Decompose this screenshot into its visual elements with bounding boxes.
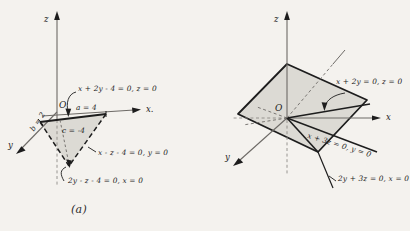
trace-yz-leader bbox=[61, 167, 66, 181]
panel-a-origin-label: O bbox=[59, 100, 66, 110]
panel-a-y-axis-label: y bbox=[8, 140, 13, 150]
panel-a-x-axis-label: x. bbox=[146, 104, 154, 114]
figure-container: z x. y O a = 4 b = 2 c = -4 x + 2y - 4 =… bbox=[0, 0, 410, 231]
y-axis-arrow bbox=[16, 146, 26, 154]
trace-yz-line-upper bbox=[333, 50, 345, 64]
panel-b-origin-label: O bbox=[275, 103, 282, 113]
x-axis-arrow bbox=[372, 115, 381, 120]
z-axis-arrow bbox=[54, 11, 60, 20]
panel-a-caption: (a) bbox=[71, 203, 87, 216]
panel-b: z x y O x + 2y = 0, z = 0 x + 3z = 0, y … bbox=[205, 0, 410, 231]
panel-b-graphic bbox=[205, 0, 410, 231]
panel-b-trace-xy-label: x + 2y = 0, z = 0 bbox=[336, 77, 402, 86]
panel-a-graphic bbox=[0, 0, 205, 231]
panel-a-trace-xy-label: x + 2y - 4 = 0, z = 0 bbox=[78, 84, 157, 93]
panel-b-z-axis-label: z bbox=[274, 14, 278, 24]
panel-b-x-axis-label: x bbox=[386, 112, 391, 122]
z-axis-arrow bbox=[284, 11, 290, 20]
panel-b-y-axis-label: y bbox=[225, 152, 230, 162]
panel-a-trace-yz-label: 2y - z - 4 = 0, x = 0 bbox=[68, 176, 143, 185]
trace-xz-leader bbox=[88, 147, 96, 152]
panel-a-z-axis-label: z bbox=[44, 14, 48, 24]
panel-a-intercept-c-label: c = -4 bbox=[62, 126, 85, 135]
x-axis-arrow bbox=[132, 107, 141, 113]
panel-a: z x. y O a = 4 b = 2 c = -4 x + 2y - 4 =… bbox=[0, 0, 205, 231]
panel-a-intercept-a-label: a = 4 bbox=[76, 103, 97, 112]
trace-yz-line-ext bbox=[318, 152, 333, 188]
panel-a-trace-xz-label: x - z - 4 = 0, y = 0 bbox=[98, 148, 168, 157]
panel-b-trace-yz-label: 2y + 3z = 0, x = 0 bbox=[338, 174, 409, 183]
